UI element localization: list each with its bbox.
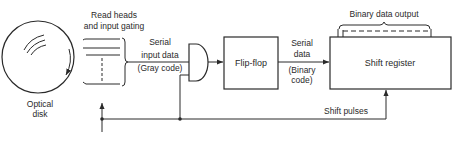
read-heads-label-2: and input gating — [84, 21, 145, 31]
shift-pulses-edge: Shift pulses — [100, 90, 386, 132]
flip-flop-label: Flip-flop — [235, 58, 267, 68]
rotation-arrow-icon — [66, 49, 70, 75]
read-heads-label-1: Read heads — [91, 10, 137, 20]
binary-output-label: Binary data output — [350, 9, 420, 19]
serial-input-label-3: (Gray code) — [138, 63, 183, 73]
optical-disk: Optical disk — [2, 21, 74, 119]
and-gate — [180, 44, 223, 119]
read-heads-brace-icon — [122, 38, 128, 86]
serial-input-label-1: Serial — [149, 37, 171, 47]
shift-register-block: Shift register — [330, 37, 451, 89]
junction-dot-left — [100, 117, 104, 121]
serial-data-edge: Serial data (Binary code) — [278, 38, 329, 85]
serial-data-label-1: Serial — [291, 38, 313, 48]
disk-outline-icon — [2, 21, 74, 93]
shift-pulses-label: Shift pulses — [324, 106, 368, 116]
read-head-line-n — [83, 82, 120, 84]
serial-input-label-2: input data — [141, 50, 179, 60]
serial-data-label-3: (Binary — [289, 65, 317, 75]
and-gate-icon — [189, 44, 208, 81]
binary-output: Binary data output — [338, 9, 431, 37]
disk-label-2: disk — [32, 109, 48, 119]
serial-input-edge: Serial input data (Gray code) — [128, 37, 189, 73]
read-head-line-1 — [83, 39, 120, 40]
binary-output-brace-icon — [339, 22, 430, 29]
flip-flop-block: Flip-flop — [224, 37, 278, 89]
gate-shift-input-line — [180, 75, 189, 119]
disk-track-arcs-icon — [24, 35, 46, 55]
junction-dot-gate — [178, 117, 182, 121]
read-heads: Read heads and input gating — [83, 10, 145, 86]
serial-data-label-2: data — [294, 49, 311, 59]
optical-encoder-diagram: Optical disk Read heads and input gating… — [0, 0, 454, 141]
shift-register-label: Shift register — [365, 58, 416, 68]
serial-data-label-4: code) — [291, 75, 312, 85]
disk-label-1: Optical — [27, 99, 54, 109]
